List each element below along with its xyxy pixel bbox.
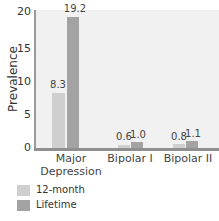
y-axis <box>34 10 36 150</box>
legend-label: 12-month <box>36 184 85 195</box>
y-tick-10: 10 <box>11 75 31 88</box>
legend-swatch-lifetime <box>17 200 30 211</box>
value-label: 19.2 <box>63 3 87 14</box>
x-axis <box>34 148 219 151</box>
category-label-line1: Major <box>48 152 94 165</box>
value-label: 8.3 <box>46 79 70 90</box>
category-label-line2: Depression <box>36 165 106 178</box>
y-tick-20: 20 <box>11 5 31 18</box>
x-category-bipolar-i: Bipolar I <box>102 152 158 165</box>
legend-swatch-12-month <box>17 185 30 196</box>
y-tick-15: 15 <box>11 42 31 55</box>
y-tick-5: 5 <box>11 108 31 121</box>
legend-item-12-month: 12-month <box>17 184 85 196</box>
value-label: 1.1 <box>181 128 205 139</box>
x-category-major-depression: Major Depression <box>48 152 94 178</box>
legend-item-lifetime: Lifetime <box>17 199 77 211</box>
legend-label: Lifetime <box>36 199 77 210</box>
x-category-bipolar-ii: Bipolar II <box>160 152 216 165</box>
value-label: 1.0 <box>126 129 150 140</box>
bar-major-depression-12-month <box>52 93 65 149</box>
y-tick-0: 0 <box>11 141 31 154</box>
